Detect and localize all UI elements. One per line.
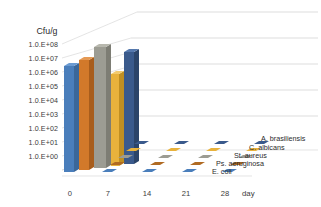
y-tick-label-1: 1.0.E+07: [29, 55, 58, 63]
y-axis-title: Cfu/g: [36, 26, 57, 36]
y-tick-label-2: 1.0.E+06: [29, 69, 58, 77]
y-tick-label-5: 1.0.E+03: [29, 111, 58, 119]
legend-label-4: E. coli: [212, 167, 232, 176]
bar-day0-a-brasiliensis: [64, 63, 79, 172]
y-tick-label-6: 1.0.E+02: [29, 125, 58, 133]
bar-day0-e-coli: [124, 49, 139, 164]
floor-markers-day14: [142, 141, 189, 172]
legend: A. brasiliensis C. albicans St. aureus P…: [212, 134, 306, 176]
x-tick-label-0: 0: [68, 189, 72, 198]
y-tick-label-0: 1.0.E+08: [29, 41, 58, 49]
x-axis-title: day: [242, 189, 255, 198]
y-tick-label-3: 1.0.E+05: [29, 83, 58, 91]
y-tick-label-8: 1.0.E+00: [29, 153, 58, 161]
bar-day0-st-aureus: [94, 44, 111, 168]
gridlines-backwall: [131, 12, 318, 116]
chart-container: Cfu/g 1.0.E+08 1.0.E+07 1.0.E+06 1.0.E+0…: [0, 0, 321, 207]
x-tick-label-4: 28: [221, 189, 230, 198]
bar-chart-3d: Cfu/g 1.0.E+08 1.0.E+07 1.0.E+06 1.0.E+0…: [0, 0, 321, 207]
y-tick-label-4: 1.0.E+04: [29, 97, 58, 105]
bar-day0-c-albicans: [79, 57, 94, 170]
x-tick-label-2: 14: [143, 189, 152, 198]
x-tick-label-1: 7: [106, 189, 110, 198]
legend-label-0: A. brasiliensis: [261, 134, 306, 143]
x-tick-label-3: 21: [182, 189, 191, 198]
y-tick-label-7: 1.0.E+01: [29, 139, 58, 147]
bar-day0-ps-aeruginosa: [111, 71, 124, 166]
